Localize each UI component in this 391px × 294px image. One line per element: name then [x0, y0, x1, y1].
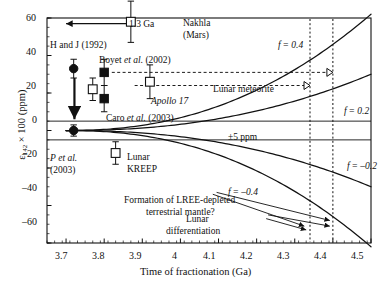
y-axis-title: ε142 × 100 (ppm): [16, 80, 29, 170]
curve-label-f-m0-2: f = –0.2: [347, 162, 377, 172]
marker-filled-circle: [69, 126, 77, 134]
datapoint-p-et-al-2003: [69, 125, 77, 136]
marker-filled-circle: [69, 64, 77, 72]
curve-label-f-0-2: f = 0.2: [344, 107, 369, 117]
label-lunar-meteorite: Lunar meteorite: [213, 85, 274, 95]
annotation-lunar-diff-line2: differentiation: [166, 227, 220, 237]
ytick-label-m60: –60: [22, 217, 37, 228]
label-caro-year: (2003): [148, 113, 173, 123]
label-apollo-17: Apollo 17: [151, 97, 188, 107]
xtick-label-3-7: 3.7: [55, 251, 68, 262]
datapoint-h-and-j-1992: [69, 59, 77, 78]
label-pm5ppm: ±5 ppm: [228, 133, 257, 143]
y-axis-rest2: × 100 (ppm): [16, 90, 27, 143]
xtick-label-4-5: 4.5: [351, 251, 364, 262]
datapoint-lunar-kreep: [111, 142, 120, 165]
label-p-year: (2003): [50, 166, 75, 176]
y-axis-subscript: 142: [21, 145, 29, 156]
label-caro-name: Caro: [106, 113, 124, 123]
label-caro-etal: et al.: [127, 113, 146, 123]
ytick-label-0: 0: [32, 115, 37, 126]
marker-open-square: [111, 149, 120, 158]
ytick-label-60: 60: [26, 13, 36, 24]
marker-filled-square: [100, 68, 108, 76]
label-p-name: P: [50, 153, 56, 163]
annotation-lunar-diff-line1: Lunar: [186, 215, 209, 225]
ytick-label-m40: –40: [22, 183, 37, 194]
label-lunar-kreep-line2: KREEP: [127, 165, 157, 175]
ytick-label-40: 40: [26, 47, 36, 58]
label-boyet: Boyet et al. (2002): [99, 56, 171, 66]
annotation-1-3ga: 1.3 Ga: [129, 20, 154, 30]
label-nakhla-line2: (Mars): [183, 31, 209, 41]
x-axis-title: Time of fractionation (Ga): [140, 266, 251, 277]
label-p-etal: P et al.: [50, 154, 77, 164]
label-nakhla-line1: Nakhla: [183, 19, 210, 29]
xtick-label-4-4: 4.4: [314, 251, 327, 262]
y-axis-eps: ε: [16, 155, 27, 159]
label-boyet-name: Boyet: [99, 55, 122, 65]
projection-arrowhead-1: [304, 82, 310, 90]
figure-root: 60 40 20 0 –20 –40 –60 3.7 3.8 3.9 4 4.1…: [0, 0, 391, 294]
projection-arrowhead-0: [327, 68, 333, 76]
xtick-label-3-8: 3.8: [92, 251, 105, 262]
xtick-label-3-9: 3.9: [129, 251, 142, 262]
label-p-etal-ital: et al.: [58, 153, 77, 163]
xtick-label-4: 4: [172, 251, 177, 262]
label-lunar-kreep-line1: Lunar: [127, 153, 150, 163]
label-caro: Caro et al. (2003): [106, 114, 174, 124]
label-boyet-etal: et al.: [124, 55, 143, 65]
datapoint-boyet-lower: [100, 86, 108, 112]
xtick-label-4-2: 4.2: [240, 251, 253, 262]
label-h-and-j: H and J (1992): [50, 41, 107, 51]
datapoint-lunar-meteorite: [146, 65, 155, 99]
marker-open-square: [146, 77, 155, 86]
marker-open-square: [88, 85, 97, 94]
datapoint-caro-2003: [88, 78, 97, 101]
annotation-lree-line1: Formation of LREE-depleted: [124, 196, 235, 206]
xtick-label-4-3: 4.3: [277, 251, 290, 262]
label-boyet-year: (2002): [145, 55, 170, 65]
marker-filled-square: [100, 94, 108, 102]
curve-f--0.2: [66, 131, 371, 187]
curve-label-f-0-4: f = 0.4: [278, 41, 303, 51]
xtick-label-4-1: 4.1: [203, 251, 216, 262]
